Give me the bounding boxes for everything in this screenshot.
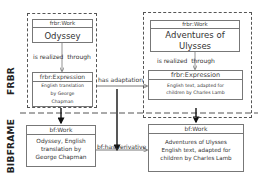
frbr-work-ulysses[interactable]: frbr:Work Adventures of Ulysses (150, 20, 240, 52)
node-text: Odyssey, English translation by George C… (27, 135, 95, 163)
through-word: through (191, 57, 215, 64)
frbr-expression-lamb[interactable]: frbr:Expression English text, adapted fo… (148, 70, 243, 100)
frbr-work-odyssey[interactable]: frbr:Work Odyssey (32, 19, 93, 43)
bf-work-lamb[interactable]: bf:Work Adventures of Ulysses English te… (148, 124, 244, 172)
node-type: frbr:Work (151, 21, 239, 29)
node-type: frbr:Expression (149, 71, 242, 80)
through-word: through (67, 53, 91, 60)
realized-label: is realized through (33, 53, 91, 60)
node-text: English translation by George Chapman (33, 82, 92, 106)
bf-work-chapman[interactable]: bf:Work Odyssey, English translation by … (26, 125, 96, 167)
node-title: Adventures of Ulysses (151, 29, 239, 53)
realized-word: is realized (33, 53, 63, 60)
node-text: Adventures of Ulysses English text, adap… (149, 134, 243, 166)
has-adaptation-label: has adaptation (98, 76, 143, 83)
node-type: frbr:Work (33, 20, 92, 28)
node-title: Odyssey (33, 28, 92, 44)
realized-label: is realized through (157, 57, 215, 64)
node-type: bf:Work (149, 125, 243, 134)
node-text: English text, adapted for children by Ch… (149, 80, 242, 98)
has-derivative-label: bf:hasDerivative (97, 143, 146, 150)
node-type: frbr:Expression (33, 73, 92, 82)
realized-word: is realized (157, 57, 187, 64)
frbr-expression-chapman[interactable]: frbr:Expression English translation by G… (32, 72, 93, 107)
node-type: bf:Work (27, 126, 95, 135)
